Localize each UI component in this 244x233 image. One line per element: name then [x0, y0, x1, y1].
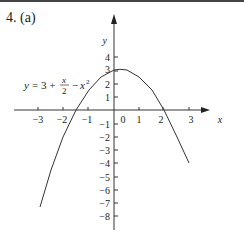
svg-text:y: y	[23, 79, 29, 91]
svg-text:0: 0	[121, 114, 126, 125]
svg-text:y: y	[102, 35, 108, 46]
svg-text:1: 1	[105, 92, 110, 103]
svg-text:2: 2	[62, 86, 67, 96]
svg-text:−2: −2	[99, 132, 110, 143]
svg-text:x: x	[61, 75, 66, 85]
svg-text:1: 1	[137, 114, 142, 125]
y-axis-arrow-icon	[111, 14, 117, 24]
svg-text:−6: −6	[99, 185, 110, 196]
svg-text:= 3 +: = 3 +	[32, 79, 55, 91]
y-tick-labels: 4 3 2 1 −1 −2 −3 −4 −5 −6 −7 −8 y	[99, 35, 110, 222]
parabola-graph: −3 −2 −1 0 1 2 3 x 4 3 2 1 −1 −2 −3 −4 −…	[0, 0, 244, 233]
svg-text:−5: −5	[99, 172, 110, 183]
svg-text:−2: −2	[57, 114, 68, 125]
equation-label: y = 3 + x 2 − x 2	[23, 75, 90, 96]
svg-text:2: 2	[105, 79, 110, 90]
svg-text:−3: −3	[33, 114, 44, 125]
svg-text:2: 2	[86, 78, 90, 86]
x-tick-labels: −3 −2 −1 0 1 2 3 x	[33, 114, 223, 125]
svg-text:4: 4	[105, 52, 110, 63]
x-axis-arrow-icon	[201, 107, 210, 113]
svg-text:−1: −1	[82, 114, 93, 125]
svg-text:−3: −3	[99, 145, 110, 156]
svg-text:−4: −4	[99, 158, 110, 169]
svg-text:2: 2	[159, 114, 164, 125]
svg-text:−: −	[72, 79, 78, 91]
svg-text:−7: −7	[99, 198, 110, 209]
y-ticks	[114, 57, 118, 216]
svg-text:x: x	[217, 114, 223, 125]
svg-text:x: x	[79, 79, 85, 91]
svg-text:−8: −8	[99, 211, 110, 222]
svg-text:−1: −1	[99, 119, 110, 130]
svg-text:3: 3	[189, 114, 194, 125]
